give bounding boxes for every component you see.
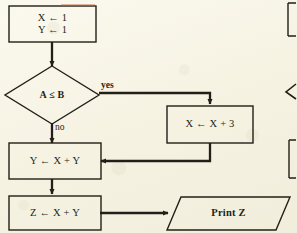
flowchart-page: X ← 1 Y ← 1 A ≤ B X ← X + 3 Y ← X + Y Z …: [0, 0, 297, 233]
sum-z-line-1: Z ← X + Y: [30, 207, 80, 220]
init-line-2: Y ← 1: [38, 24, 67, 37]
sum-y-box-label: Y ← X + Y: [9, 143, 101, 179]
increment-box-label: X ← X + 3: [167, 106, 253, 143]
init-line-1: X ← 1: [38, 12, 68, 25]
decision-diamond-label: A ≤ B: [5, 84, 99, 106]
increment-line-1: X ← X + 3: [185, 118, 234, 131]
edge-label-no: no: [55, 122, 65, 132]
init-box-label: X ← 1 Y ← 1: [9, 6, 96, 42]
sum-y-line-1: Y ← X + Y: [30, 155, 81, 168]
edge-artifact-top: [288, 3, 296, 36]
print-line-1: Print Z: [211, 207, 245, 220]
edge-artifact-arrow: [286, 84, 296, 99]
decision-line-1: A ≤ B: [40, 89, 65, 102]
edge-artifact-bottom: [289, 140, 296, 178]
print-parallelogram-label: Print Z: [175, 197, 282, 230]
sum-z-box-label: Z ← X + Y: [9, 196, 101, 230]
edge-label-yes: yes: [101, 80, 114, 90]
